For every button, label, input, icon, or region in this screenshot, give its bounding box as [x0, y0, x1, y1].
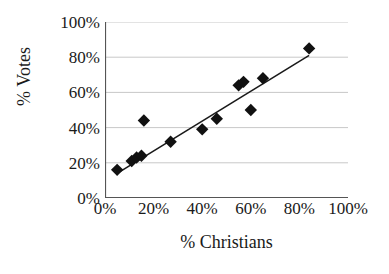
scatter-chart: 0% 20% 40% 60% 80% 100% 0% 20% 40% 60% 8… [0, 0, 389, 274]
y-tick-label: 100% [38, 14, 100, 31]
y-tick-label: 80% [38, 49, 100, 66]
data-point [138, 114, 150, 126]
x-tick-label: 100% [328, 200, 368, 217]
x-tick-label: 20% [138, 200, 169, 217]
data-point [303, 42, 315, 54]
y-axis-title: % Votes [14, 17, 35, 137]
y-tick-label: 40% [38, 119, 100, 136]
data-point [245, 104, 257, 116]
plot-canvas [105, 22, 348, 198]
x-tick-label: 0% [94, 200, 117, 217]
y-tick-label: 20% [38, 154, 100, 171]
x-tick-label: 60% [235, 200, 266, 217]
x-tick-label: 40% [187, 200, 218, 217]
plot-area [105, 22, 348, 198]
x-tick-label: 80% [284, 200, 315, 217]
y-axis-tick-labels: 0% 20% 40% 60% 80% 100% [36, 22, 100, 198]
y-tick-label: 60% [38, 84, 100, 101]
x-axis-title: % Christians [105, 232, 348, 253]
y-tick-label: 0% [38, 190, 100, 207]
data-point [111, 164, 123, 176]
data-point [196, 123, 208, 135]
data-point [257, 72, 269, 84]
x-axis-tick-labels: 0% 20% 40% 60% 80% 100% [105, 200, 348, 224]
data-point-markers [111, 42, 315, 176]
